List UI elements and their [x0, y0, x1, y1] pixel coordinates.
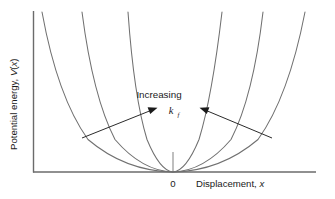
y-axis-label-text: Potential energy, — [8, 76, 19, 150]
x-axis-label: Displacement, x — [196, 178, 265, 189]
increasing-arrow-right-line — [205, 110, 272, 138]
potential-energy-figure: Increasing k f 0 Displacement, x Potenti… — [0, 0, 335, 199]
increasing-label: Increasing — [136, 89, 181, 100]
increasing-arrow-left-line — [82, 110, 152, 138]
x-axis-label-variable: x — [258, 178, 265, 189]
svg-text:Displacement, x: Displacement, x — [196, 178, 265, 189]
increasing-arrow-left-head — [148, 107, 158, 114]
force-constant-symbol: k f — [169, 105, 181, 118]
origin-label: 0 — [170, 178, 175, 189]
increasing-arrow-right-head — [200, 107, 210, 114]
force-constant-subscript: f — [178, 111, 181, 118]
x-axis-label-text: Displacement, — [196, 178, 259, 189]
svg-text:Potential energy, V(x): Potential energy, V(x) — [8, 58, 19, 150]
y-axis-label: Potential energy, V(x) — [8, 58, 19, 150]
force-constant-letter: k — [169, 105, 174, 116]
y-axis-label-paren-close: ) — [8, 58, 19, 61]
